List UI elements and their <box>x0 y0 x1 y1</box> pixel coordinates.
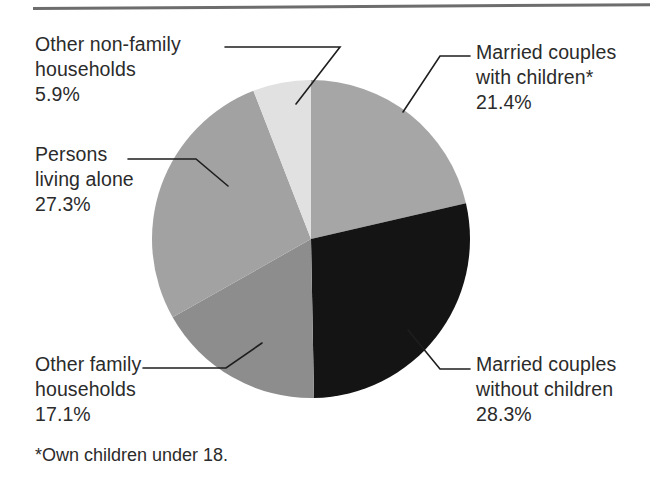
slice-label-married-couples-with-children: Married couples with children* 21.4% <box>476 40 616 115</box>
label-line-1: Persons <box>35 142 134 167</box>
slice-label-persons-living-alone: Persons living alone 27.3% <box>35 142 134 217</box>
pie-chart-figure: Other non-family households 5.9% Persons… <box>0 0 671 490</box>
label-line-1: Married couples <box>476 40 616 65</box>
label-value: 27.3% <box>35 192 134 217</box>
footnote-text: *Own children under 18. <box>35 443 228 467</box>
pie-slices <box>152 80 470 398</box>
label-line-1: Other non-family <box>35 32 181 57</box>
label-value: 5.9% <box>35 82 181 107</box>
label-value: 28.3% <box>476 402 616 427</box>
label-line-1: Other family <box>35 352 141 377</box>
label-line-2: households <box>35 57 181 82</box>
label-line-2: without children <box>476 377 616 402</box>
slice-label-other-family-households: Other family households 17.1% <box>35 352 141 427</box>
slice-label-married-couples-without-children: Married couples without children 28.3% <box>476 352 616 427</box>
label-value: 21.4% <box>476 90 616 115</box>
label-line-1: Married couples <box>476 352 616 377</box>
slice-label-other-non-family-households: Other non-family households 5.9% <box>35 32 181 107</box>
label-line-2: living alone <box>35 167 134 192</box>
leader-line-married-with-children <box>403 56 470 112</box>
label-line-2: households <box>35 377 141 402</box>
label-line-2: with children* <box>476 65 616 90</box>
label-value: 17.1% <box>35 402 141 427</box>
